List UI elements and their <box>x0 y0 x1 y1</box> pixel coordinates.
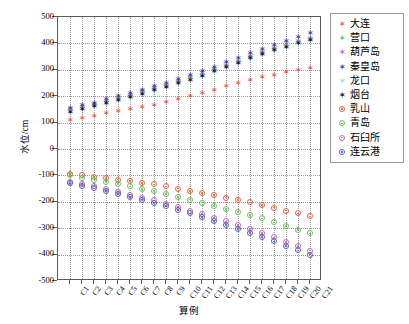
open-circle-marker-icon <box>103 179 109 185</box>
x-tick-label: C7 <box>151 285 163 297</box>
legend-item-2[interactable]: 葫芦岛 <box>334 45 401 59</box>
open-circle-marker-icon <box>223 222 229 228</box>
legend-item-4[interactable]: 龙口 <box>334 74 401 88</box>
open-circle-marker-icon <box>163 183 169 189</box>
open-circle-marker-icon <box>187 188 193 194</box>
star-marker-icon <box>235 80 242 87</box>
star-marker-icon <box>139 90 146 97</box>
star-marker-icon <box>79 105 86 112</box>
star-marker-icon <box>307 36 314 43</box>
open-circle-marker-icon <box>199 200 205 206</box>
x-tick-mark <box>249 280 250 284</box>
grid-line-vertical <box>178 17 179 279</box>
star-marker-icon <box>334 89 350 101</box>
star-marker-icon <box>334 75 350 87</box>
open-circle-marker-icon <box>307 252 313 258</box>
open-circle-marker-icon <box>235 226 241 232</box>
legend-item-8[interactable]: 石臼所 <box>334 131 401 145</box>
grid-line-vertical <box>82 17 83 279</box>
x-axis-label: 算例 <box>57 303 321 317</box>
x-tick-mark <box>105 280 106 284</box>
y-axis-label: 水位/cm <box>17 97 31 177</box>
grid-line-vertical <box>142 17 143 279</box>
grid-line-horizontal <box>58 228 320 229</box>
legend-item-6[interactable]: 乳山 <box>334 102 401 116</box>
grid-line-horizontal <box>58 43 320 44</box>
grid-line-vertical <box>130 17 131 279</box>
y-tick-label: 200 <box>41 91 54 100</box>
star-marker-icon <box>283 68 290 75</box>
y-tick-label: 500 <box>41 12 54 21</box>
open-circle-marker-icon <box>334 103 350 115</box>
open-circle-marker-icon <box>307 230 313 236</box>
open-circle-marker-icon <box>295 210 301 216</box>
open-circle-marker-icon <box>211 218 217 224</box>
open-circle-marker-icon <box>151 200 157 206</box>
star-marker-icon <box>127 93 134 100</box>
legend-item-3[interactable]: 秦皇岛 <box>334 60 401 74</box>
legend-item-7[interactable]: 青岛 <box>334 116 401 130</box>
star-marker-icon <box>271 47 278 54</box>
star-marker-icon <box>103 110 110 117</box>
star-marker-icon <box>163 83 170 90</box>
x-tick-mark <box>81 280 82 284</box>
open-circle-marker-icon <box>103 188 109 194</box>
y-tick-label: 100 <box>41 117 54 126</box>
legend: 大连营口葫芦岛秦皇岛龙口烟台乳山青岛石臼所连云港 <box>330 13 404 163</box>
star-marker-icon <box>115 97 122 104</box>
star-marker-icon <box>127 105 134 112</box>
legend-item-0[interactable]: 大连 <box>334 17 401 31</box>
open-circle-marker-icon <box>79 175 85 181</box>
x-tick-mark <box>213 280 214 284</box>
legend-item-label: 连云港 <box>350 146 380 158</box>
chart-figure: 水位/cm 5004003002001000-100-200-300-400-5… <box>0 0 409 324</box>
x-tick-mark <box>225 280 226 284</box>
open-circle-marker-icon <box>259 202 265 208</box>
x-tick-mark <box>309 280 310 284</box>
open-circle-marker-icon <box>211 192 217 198</box>
star-marker-icon <box>151 101 158 108</box>
legend-item-label: 乳山 <box>350 103 370 115</box>
star-marker-icon <box>103 100 110 107</box>
legend-item-1[interactable]: 营口 <box>334 31 401 45</box>
open-circle-marker-icon <box>247 230 253 236</box>
y-tick-label: -100 <box>38 170 54 179</box>
grid-line-vertical <box>118 17 119 279</box>
star-marker-icon <box>334 46 350 58</box>
open-circle-marker-icon <box>163 203 169 209</box>
x-tick-label: C3 <box>103 285 115 297</box>
grid-line-vertical <box>94 17 95 279</box>
x-tick-mark <box>189 280 190 284</box>
open-circle-marker-icon <box>211 203 217 209</box>
legend-item-label: 大连 <box>350 18 370 30</box>
x-tick-mark <box>141 280 142 284</box>
x-tick-label: C6 <box>139 285 151 297</box>
open-circle-marker-icon <box>247 212 253 218</box>
star-marker-icon <box>211 86 218 93</box>
legend-item-5[interactable]: 烟台 <box>334 88 401 102</box>
open-circle-marker-icon <box>235 197 241 203</box>
x-tick-mark <box>153 280 154 284</box>
open-circle-marker-icon <box>295 247 301 253</box>
star-marker-icon <box>91 113 98 120</box>
open-circle-marker-icon <box>283 243 289 249</box>
y-tick-label: -200 <box>38 196 54 205</box>
grid-line-vertical <box>202 17 203 279</box>
star-marker-icon <box>247 55 254 62</box>
x-tick-mark <box>177 280 178 284</box>
star-marker-icon <box>223 64 230 71</box>
star-marker-icon <box>175 95 182 102</box>
grid-line-horizontal <box>58 149 320 150</box>
grid-line-vertical <box>190 17 191 279</box>
open-circle-marker-icon <box>199 190 205 196</box>
open-circle-marker-icon <box>307 213 313 219</box>
open-circle-marker-icon <box>259 234 265 240</box>
y-tick-label: -400 <box>38 249 54 258</box>
y-tick-label: 300 <box>41 64 54 73</box>
open-circle-marker-icon <box>235 209 241 215</box>
x-tick-label: C4 <box>115 285 127 297</box>
x-tick-label: C2 <box>91 285 103 297</box>
star-marker-icon <box>67 116 74 123</box>
legend-item-label: 龙口 <box>350 75 370 87</box>
legend-item-9[interactable]: 连云港 <box>334 145 401 159</box>
